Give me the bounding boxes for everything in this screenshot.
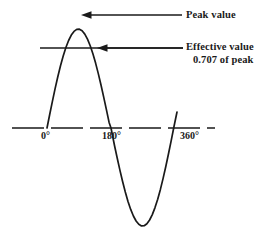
- effective-value-label: Effective value 0.707 of peak: [186, 41, 254, 66]
- axis-label-180-degrees: 180°: [102, 130, 121, 141]
- effective-value-arrow: [97, 44, 183, 52]
- axis-label-0-degrees: 0°: [41, 130, 50, 141]
- figure-canvas: [0, 0, 268, 251]
- peak-value-label: Peak value: [186, 9, 236, 22]
- peak-value-arrow: [81, 11, 182, 19]
- sine-wave-figure: Peak value Effective value 0.707 of peak…: [0, 0, 268, 251]
- axis-label-360-degrees: 360°: [180, 130, 199, 141]
- effective-value-label-line2: 0.707 of peak: [186, 54, 254, 67]
- effective-value-label-line1: Effective value: [186, 41, 254, 54]
